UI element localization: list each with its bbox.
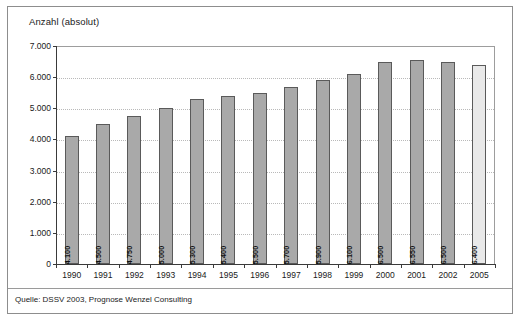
y-axis-tick-mark: [53, 46, 56, 47]
bar-value-label: 6.100: [345, 246, 354, 265]
bar-value-label: 6.400: [470, 246, 479, 265]
y-axis-tick-mark: [53, 171, 56, 172]
y-axis-tick-mark: [53, 77, 56, 78]
x-axis-tick-label: 1996: [250, 270, 269, 280]
bar-value-label: 5.000: [157, 246, 166, 265]
x-axis-tick-mark: [213, 264, 214, 268]
footer-divider: [8, 288, 512, 289]
y-axis-tick-label: 5.000: [30, 103, 51, 113]
bar-value-label: 4.100: [63, 246, 72, 265]
x-axis-tick-mark: [401, 264, 402, 268]
bar-value-label: 5.400: [219, 246, 228, 265]
bar: 6.550: [410, 60, 424, 264]
bar: 6.400: [472, 65, 486, 264]
y-axis-tick-label: 2.000: [30, 197, 51, 207]
x-axis-tick-label: 1998: [313, 270, 332, 280]
bar: 4.750: [127, 116, 141, 264]
bar: 5.000: [159, 108, 173, 264]
y-axis-tick-mark: [53, 202, 56, 203]
bar: 5.900: [316, 80, 330, 264]
gridline: [56, 203, 494, 204]
x-axis-tick-label: 1997: [282, 270, 301, 280]
chart-axis-title: Anzahl (absolut): [29, 16, 99, 27]
gridline: [56, 109, 494, 110]
chart-figure: Anzahl (absolut) 4.1004.5004.7505.0005.3…: [0, 0, 521, 322]
y-axis-tick-mark: [53, 139, 56, 140]
bar-value-label: 4.500: [94, 246, 103, 265]
y-axis-tick-label: 0: [46, 259, 51, 269]
x-axis-tick-mark: [370, 264, 371, 268]
source-note: Quelle: DSSV 2003, Prognose Wenzel Consu…: [15, 295, 192, 304]
y-axis-tick-label: 1.000: [30, 228, 51, 238]
gridline: [56, 172, 494, 173]
y-axis-tick-label: 3.000: [30, 166, 51, 176]
x-axis-tick-label: 1994: [188, 270, 207, 280]
x-axis-tick-label: 1993: [156, 270, 175, 280]
bar: 5.300: [190, 99, 204, 264]
y-axis-line: [56, 46, 57, 265]
bar-value-label: 5.500: [251, 246, 260, 265]
x-axis-tick-mark: [432, 264, 433, 268]
x-axis-tick-label: 1995: [219, 270, 238, 280]
x-axis-tick-mark: [244, 264, 245, 268]
x-axis-tick-mark: [307, 264, 308, 268]
plot-area: 4.1004.5004.7505.0005.3005.4005.5005.700…: [56, 46, 495, 264]
x-axis-tick-mark: [56, 264, 57, 268]
x-axis-tick-label: 1991: [94, 270, 113, 280]
gridline: [56, 234, 494, 235]
bar-value-label: 5.900: [314, 246, 323, 265]
bar: 6.500: [378, 62, 392, 264]
x-axis-tick-mark: [276, 264, 277, 268]
bar: 6.500: [441, 62, 455, 264]
y-axis-tick-label: 7.000: [30, 41, 51, 51]
y-axis-tick-label: 4.000: [30, 134, 51, 144]
bar: 6.100: [347, 74, 361, 264]
x-axis-tick-mark: [495, 264, 496, 268]
x-axis-tick-label: 2005: [470, 270, 489, 280]
x-axis-tick-label: 2002: [438, 270, 457, 280]
bar: 5.500: [253, 93, 267, 264]
bar-value-label: 6.500: [376, 246, 385, 265]
x-axis-tick-mark: [464, 264, 465, 268]
x-axis-tick-label: 2001: [407, 270, 426, 280]
bar-value-label: 4.750: [125, 246, 134, 265]
y-axis-tick-mark: [53, 233, 56, 234]
bar: 4.100: [65, 136, 79, 264]
bar: 4.500: [96, 124, 110, 264]
x-axis-tick-mark: [150, 264, 151, 268]
x-axis-tick-mark: [338, 264, 339, 268]
bar: 5.400: [221, 96, 235, 264]
x-axis-tick-label: 2000: [376, 270, 395, 280]
x-axis-tick-mark: [119, 264, 120, 268]
x-axis-tick-label: 1999: [344, 270, 363, 280]
y-axis-tick-mark: [53, 108, 56, 109]
x-axis-tick-label: 1992: [125, 270, 144, 280]
bar-value-label: 5.300: [188, 246, 197, 265]
bar-value-label: 6.550: [408, 246, 417, 265]
bar-value-label: 5.700: [282, 246, 291, 265]
bar-value-label: 6.500: [439, 246, 448, 265]
bar: 5.700: [284, 87, 298, 265]
gridline: [56, 78, 494, 79]
x-axis-tick-mark: [181, 264, 182, 268]
x-axis-tick-mark: [87, 264, 88, 268]
gridline: [56, 140, 494, 141]
y-axis-tick-label: 6.000: [30, 72, 51, 82]
x-axis-tick-label: 1990: [62, 270, 81, 280]
